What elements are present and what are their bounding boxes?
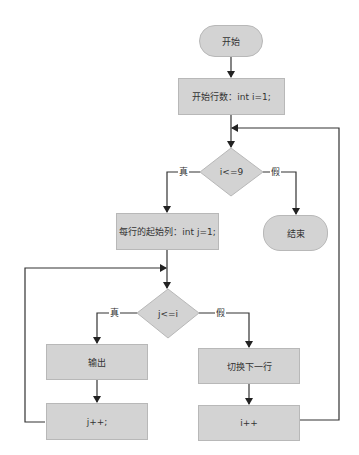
inc-j-node: j++; [46,403,148,440]
next-row-node: 切换下一行 [198,348,300,384]
edge-label-row-false: 假 [270,167,281,177]
cond-col-decision: j<=i [137,289,199,338]
init-row-node: 开始行数：int i=1; [178,78,285,115]
edge-label-col-false: 假 [215,308,226,318]
edge-label-row-true: 真 [178,167,189,177]
output-node: 输出 [46,344,148,380]
end-node: 结束 [263,215,328,251]
init-col-node: 每行的起始列：int j=1; [116,213,219,250]
cond-row-decision: i<=9 [200,148,263,196]
start-node: 开始 [199,25,263,57]
inc-i-node: i++ [198,405,300,441]
edge-label-col-true: 真 [109,308,120,318]
